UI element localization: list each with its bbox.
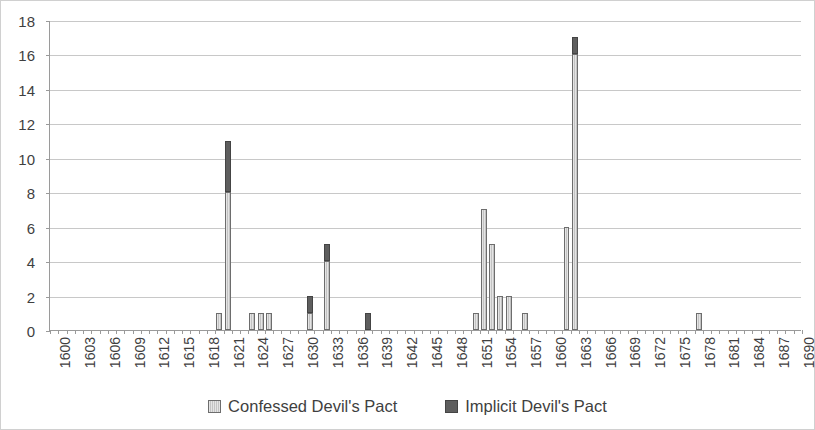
bar-stack[interactable] [258,313,264,330]
bar-stack[interactable] [473,313,479,330]
x-tick [447,330,448,334]
x-tick [785,330,786,334]
x-tick [157,330,158,334]
y-tick [46,228,50,229]
bar-stack[interactable] [266,313,272,330]
x-axis-tick-label: 1654 [504,337,518,368]
bar-stack[interactable] [365,313,371,330]
x-tick [339,330,340,334]
gridline [50,55,801,56]
y-axis-tick-label: 18 [18,14,35,29]
x-tick [645,330,646,334]
bar-segment-confessed[interactable] [506,296,512,330]
x-tick [389,330,390,334]
gridline [50,124,801,125]
x-tick [794,330,795,334]
bar-stack[interactable] [506,296,512,330]
gridline [50,159,801,160]
x-tick [703,330,704,334]
x-tick [422,330,423,334]
x-tick [116,330,117,334]
x-tick [686,330,687,334]
bar-segment-confessed[interactable] [481,209,487,330]
x-tick [281,330,282,334]
x-tick [182,330,183,334]
legend-item[interactable]: Implicit Devil's Pact [445,397,607,416]
bar-segment-implicit[interactable] [324,244,330,261]
y-tick [46,55,50,56]
bar-segment-implicit[interactable] [225,141,231,193]
gridline [50,90,801,91]
bar-segment-implicit[interactable] [572,37,578,54]
bar-stack[interactable] [522,313,528,330]
x-axis-tick-label: 1606 [108,337,122,368]
bar-stack[interactable] [324,244,330,330]
x-tick [83,330,84,334]
bar-stack[interactable] [225,141,231,330]
plot-area [49,21,801,331]
x-tick [91,330,92,334]
x-tick [58,330,59,334]
x-tick [397,330,398,334]
bar-segment-implicit[interactable] [365,313,371,330]
x-tick [67,330,68,334]
x-tick [190,330,191,334]
x-tick [356,330,357,334]
bar-segment-confessed[interactable] [258,313,264,330]
x-tick [438,330,439,334]
x-axis-tick-label: 1609 [133,337,147,368]
x-tick [331,330,332,334]
y-tick [46,159,50,160]
bar-segment-confessed[interactable] [225,192,231,330]
x-tick [579,330,580,334]
x-tick [149,330,150,334]
x-tick [521,330,522,334]
chart-legend: Confessed Devil's PactImplicit Devil's P… [1,397,814,416]
y-tick [46,90,50,91]
bar-stack[interactable] [572,37,578,330]
x-tick [761,330,762,334]
x-axis-tick-label: 1618 [207,337,221,368]
legend-item[interactable]: Confessed Devil's Pact [208,397,397,416]
x-axis-tick-label: 1624 [256,337,270,368]
bar-stack[interactable] [564,227,570,330]
bar-segment-confessed[interactable] [572,54,578,330]
y-axis-tick-label: 12 [18,117,35,132]
x-tick [480,330,481,334]
x-axis-tick-label: 1678 [703,337,717,368]
bar-stack[interactable] [489,244,495,330]
bar-segment-confessed[interactable] [249,313,255,330]
x-axis-tick-label: 1660 [554,337,568,368]
bar-segment-confessed[interactable] [307,313,313,330]
bar-segment-confessed[interactable] [696,313,702,330]
bar-segment-confessed[interactable] [522,313,528,330]
bar-stack[interactable] [216,313,222,330]
bar-segment-confessed[interactable] [266,313,272,330]
x-tick [232,330,233,334]
x-tick [199,330,200,334]
bar-segment-confessed[interactable] [497,296,503,330]
bar-stack[interactable] [481,209,487,330]
legend-swatch-confessed [208,400,221,413]
y-axis-tick-label: 6 [27,220,35,235]
x-axis-tick-label: 1663 [579,337,593,368]
x-tick [124,330,125,334]
bar-stack[interactable] [307,296,313,330]
bar-stack[interactable] [249,313,255,330]
bar-stack[interactable] [696,313,702,330]
bar-segment-implicit[interactable] [307,296,313,313]
x-axis-tick-label: 1645 [430,337,444,368]
bar-segment-confessed[interactable] [473,313,479,330]
x-axis-tick-label: 1690 [802,337,815,368]
x-axis-tick-label: 1639 [380,337,394,368]
x-tick [620,330,621,334]
bar-segment-confessed[interactable] [489,244,495,330]
bar-segment-confessed[interactable] [216,313,222,330]
x-axis-tick-label: 1669 [628,337,642,368]
y-tick [46,297,50,298]
bar-stack[interactable] [497,296,503,330]
x-tick [257,330,258,334]
plot-frame [49,21,801,331]
bar-segment-confessed[interactable] [324,261,330,330]
bar-segment-confessed[interactable] [564,227,570,330]
